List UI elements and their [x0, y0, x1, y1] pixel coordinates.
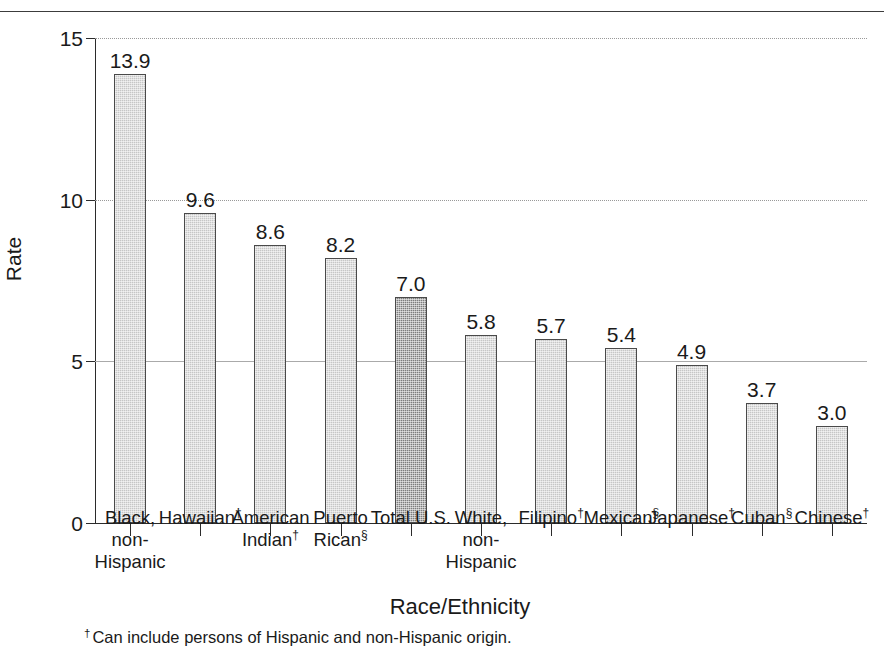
x-category-label-line: Hawaiian†: [159, 507, 242, 529]
footnote: †Can include persons of Hispanic and non…: [84, 628, 512, 646]
bar: 8.6: [254, 245, 286, 523]
chart-figure: Rate 051015 13.99.68.68.27.05.85.75.44.9…: [0, 0, 884, 648]
top-divider-rule: [0, 11, 884, 12]
bar: 5.8: [465, 335, 497, 523]
x-category-label-line: Hispanic: [446, 551, 517, 573]
x-category-label: Hawaiian†: [159, 507, 242, 529]
y-tick-label: 15: [60, 28, 83, 49]
x-category-label-line: White,: [446, 507, 517, 529]
bar-value-label: 3.0: [817, 402, 846, 423]
x-category-label-line: Indian†: [231, 529, 309, 551]
bar-value-label: 8.6: [256, 221, 285, 242]
x-category-label-line: Black,: [95, 507, 166, 529]
bar-value-label: 7.0: [396, 273, 425, 294]
bar-value-label: 5.7: [537, 315, 566, 336]
plot-area: 051015 13.99.68.68.27.05.85.75.44.93.73.…: [95, 38, 867, 523]
bar: 7.0: [395, 297, 427, 523]
x-category-label-line: Filipino†: [519, 507, 584, 529]
x-category-label: Japanese†: [648, 507, 735, 529]
footnote-marker-sup: §: [786, 506, 793, 520]
gridline: [95, 38, 867, 39]
x-category-label-line: Chinese†: [795, 507, 870, 529]
x-category-label: Black,non-Hispanic: [95, 507, 166, 573]
x-category-label: Filipino†: [519, 507, 584, 529]
x-category-label-line: non-: [95, 529, 166, 551]
bar-value-label: 9.6: [186, 189, 215, 210]
bar-value-label: 3.7: [747, 379, 776, 400]
y-axis-line: [95, 38, 96, 523]
y-tick-label: 10: [60, 189, 83, 210]
x-axis-title: Race/Ethnicity: [390, 594, 531, 620]
y-axis-title: Rate: [2, 237, 26, 281]
bar: 4.9: [676, 365, 708, 523]
footnote-marker-sup: †: [292, 528, 299, 542]
y-tick-label: 0: [71, 513, 83, 534]
x-category-label: AmericanIndian†: [231, 507, 309, 551]
x-category-label-line: Japanese†: [648, 507, 735, 529]
bar-value-label: 4.9: [677, 341, 706, 362]
x-category-label: PuertoRican§: [313, 507, 368, 551]
x-category-label-line: Cuban§: [731, 507, 792, 529]
x-category-label-line: non-: [446, 529, 517, 551]
footnote-marker-sup: †: [863, 506, 870, 520]
footnote-marker-sup: §: [361, 528, 368, 542]
x-category-label-line: Puerto: [313, 507, 368, 529]
y-tick-label: 5: [71, 351, 83, 372]
footnote-marker: †: [84, 627, 90, 639]
footnote-text: Can include persons of Hispanic and non-…: [92, 628, 511, 646]
bar-value-label: 5.8: [466, 311, 495, 332]
bar: 5.7: [535, 339, 567, 523]
bar: 13.9: [114, 74, 146, 523]
x-category-label: Total U.S.: [371, 507, 451, 529]
bar-value-label: 13.9: [110, 50, 151, 71]
x-category-label-line: Hispanic: [95, 551, 166, 573]
bar: 9.6: [184, 213, 216, 523]
y-tick-mark: [86, 361, 95, 362]
x-category-label-line: American: [231, 507, 309, 529]
x-category-label-line: Rican§: [313, 529, 368, 551]
x-category-label: Chinese†: [795, 507, 870, 529]
bar-value-label: 8.2: [326, 234, 355, 255]
bar: 8.2: [325, 258, 357, 523]
x-category-label: Cuban§: [731, 507, 792, 529]
bar-value-label: 5.4: [607, 324, 636, 345]
y-tick-mark: [86, 200, 95, 201]
y-tick-mark: [86, 38, 95, 39]
bar: 5.4: [605, 348, 637, 523]
x-category-label-line: Total U.S.: [371, 507, 451, 529]
x-category-label: White,non-Hispanic: [446, 507, 517, 573]
bar: 3.7: [746, 403, 778, 523]
